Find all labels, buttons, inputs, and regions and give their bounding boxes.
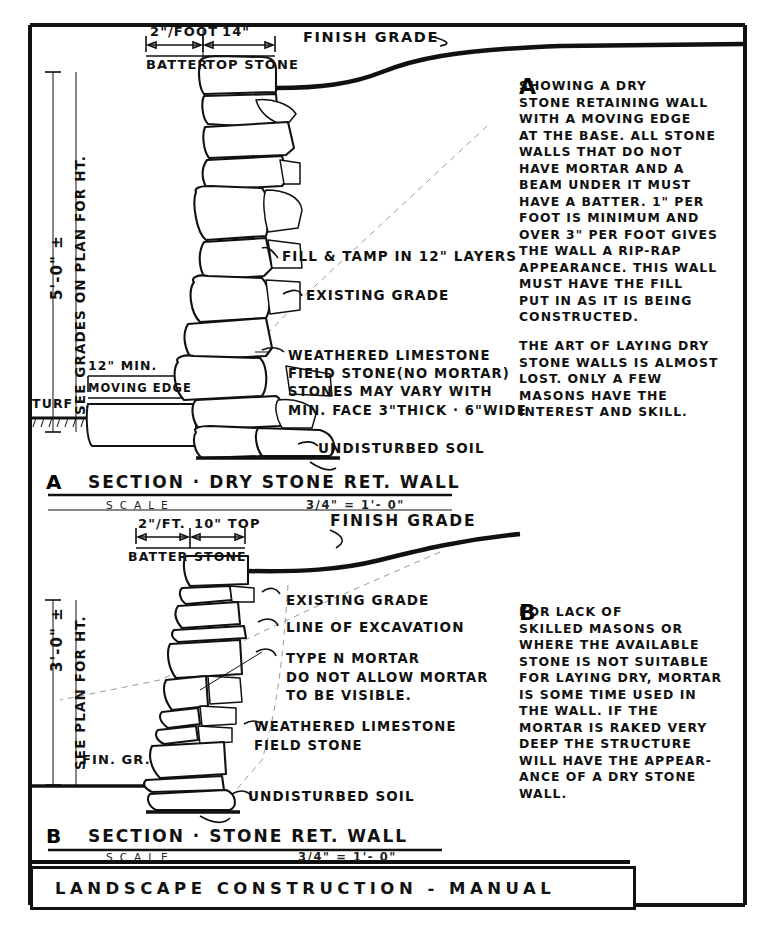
note-a-paragraph-2: THE ART OF LAYING DRY STONE WALLS IS ALM… xyxy=(519,338,751,421)
note-b-paragraph-1: FOR LACK OF SKILLED MASONS OR WHERE THE … xyxy=(519,604,751,802)
section-b-top-stone-label: STONE xyxy=(194,549,247,565)
section-a-turf-label: TURF xyxy=(32,396,73,412)
section-b-title: SECTION · STONE RET. WALL xyxy=(88,826,408,846)
section-a-title: SECTION · DRY STONE RET. WALL xyxy=(88,472,461,492)
section-a-batter-value: 2"/FOOT xyxy=(150,24,218,41)
section-b-scale-value: 3/4" = 1'- 0" xyxy=(298,850,397,864)
section-b-batter-label: BATTER xyxy=(128,549,188,565)
section-b-scale-word: SCALE xyxy=(106,851,175,863)
section-a-batter-label: BATTER xyxy=(146,57,209,74)
section-b-finish-grade-line xyxy=(246,530,520,571)
section-a-height-note: SEE GRADES ON PLAN FOR HT. xyxy=(72,155,89,415)
section-a-letter: A xyxy=(46,470,61,494)
section-a-callout-undisturbed-soil: UNDISTURBED SOIL xyxy=(318,440,485,457)
section-b-height-value: 3'-0" ± xyxy=(48,607,67,672)
section-b-fin-grade-label: FIN. GR. xyxy=(82,752,151,769)
section-b-height-note: SEE PLAN FOR HT. xyxy=(72,615,89,770)
section-b-letter: B xyxy=(46,824,61,848)
section-a-scale-word: SCALE xyxy=(106,499,175,511)
section-b-stone-wall xyxy=(144,556,254,810)
section-a-scale-value: 3/4" = 1'- 0" xyxy=(306,498,405,512)
drawing-sheet: 2"/FOOT BATTER 14" TOP STONE FINISH GRAD… xyxy=(0,0,758,933)
section-a-callout-weathered-limestone: WEATHERED LIMESTONE FIELD STONE(NO MORTA… xyxy=(288,347,527,420)
section-b-top-stone-value: 10" TOP xyxy=(194,516,261,533)
note-a-paragraph-1: SHOWING A DRY STONE RETAINING WALL WITH … xyxy=(519,78,751,326)
section-a-callout-fill-tamp: FILL & TAMP IN 12" LAYERS xyxy=(282,248,517,265)
section-b-callout-existing-grade: EXISTING GRADE xyxy=(286,592,429,609)
section-b-batter-value: 2"/FT. xyxy=(138,516,186,533)
section-a-top-stone-value: 14" xyxy=(222,24,250,41)
section-a-footing-label: MOVING EDGE xyxy=(88,381,192,396)
section-b-callout-type-n-mortar: TYPE N MORTAR DO NOT ALLOW MORTAR TO BE … xyxy=(286,650,489,706)
section-a-footing-width: 12" MIN. xyxy=(88,358,157,374)
section-a-callout-existing-grade: EXISTING GRADE xyxy=(306,287,449,304)
footer-title-block: LANDSCAPE CONSTRUCTION - MANUAL xyxy=(30,866,636,910)
footer-title: LANDSCAPE CONSTRUCTION - MANUAL xyxy=(33,879,555,898)
section-b-callout-line-of-excavation: LINE OF EXCAVATION xyxy=(286,619,465,636)
section-a-moving-edge-block xyxy=(87,404,196,446)
section-a-top-stone-label: TOP STONE xyxy=(206,57,299,74)
section-a-height-value: 5'-0" ± xyxy=(48,235,67,300)
section-a-callout-finish-grade: FINISH GRADE xyxy=(303,28,439,47)
section-b-line-of-excavation-dashed xyxy=(236,585,288,790)
section-b-callout-weathered-limestone: WEATHERED LIMESTONE FIELD STONE xyxy=(254,718,457,755)
section-b-callout-undisturbed-soil: UNDISTURBED SOIL xyxy=(248,788,415,805)
section-b-callout-finish-grade: FINISH GRADE xyxy=(330,512,476,532)
